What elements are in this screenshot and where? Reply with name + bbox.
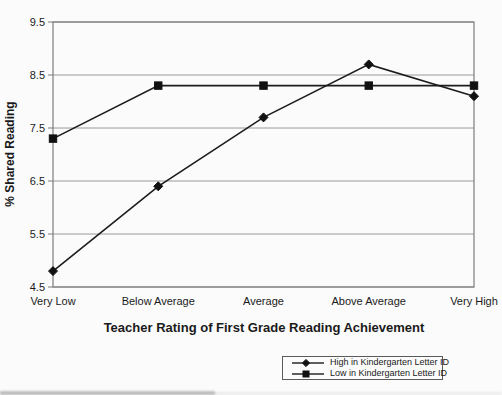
plot-border (53, 22, 474, 287)
data-point-square (365, 82, 372, 89)
legend-label-low-series: Low in Kindergarten Letter ID (330, 368, 447, 379)
data-point-diamond (364, 60, 373, 69)
y-axis-title: % Shared Reading (3, 101, 17, 206)
y-tick-label: 6.5 (30, 175, 45, 187)
legend-key-square-icon (291, 369, 327, 379)
x-tick-label: Average (243, 295, 284, 307)
data-point-square (470, 82, 477, 89)
line-chart-canvas: 9.58.57.56.55.54.5Very LowBelow AverageA… (0, 0, 502, 395)
x-axis-title: Teacher Rating of First Grade Reading Ac… (104, 320, 425, 335)
x-tick-label: Very High (450, 295, 498, 307)
x-tick-label: Above Average (332, 295, 406, 307)
scan-artifact (0, 391, 215, 395)
data-point-diamond (259, 113, 268, 122)
data-point-square (260, 82, 267, 89)
legend-item-high-series: High in Kindergarten Letter ID (291, 357, 442, 368)
y-tick-label: 7.5 (30, 122, 45, 134)
y-tick-label: 9.5 (30, 16, 45, 28)
data-point-square (155, 82, 162, 89)
legend: High in Kindergarten Letter ID Low in Ki… (282, 356, 443, 380)
y-tick-label: 8.5 (30, 69, 45, 81)
data-point-square (49, 135, 56, 142)
legend-item-low-series: Low in Kindergarten Letter ID (291, 368, 442, 379)
series-line (53, 64, 474, 271)
series-low (49, 82, 477, 142)
y-tick-label: 5.5 (30, 228, 45, 240)
data-point-diamond (302, 359, 309, 366)
y-tick-label: 4.5 (30, 281, 45, 293)
chart-figure: 9.58.57.56.55.54.5Very LowBelow AverageA… (0, 0, 502, 395)
x-tick-label: Very Low (30, 295, 75, 307)
data-point-square (303, 371, 309, 377)
series-line (53, 86, 474, 139)
data-point-diamond (470, 92, 479, 101)
x-tick-label: Below Average (122, 295, 195, 307)
legend-key-diamond-icon (291, 358, 327, 368)
series-high (49, 60, 479, 276)
plot-area: 9.58.57.56.55.54.5Very LowBelow AverageA… (30, 16, 498, 307)
legend-label-high-series: High in Kindergarten Letter ID (330, 357, 449, 368)
